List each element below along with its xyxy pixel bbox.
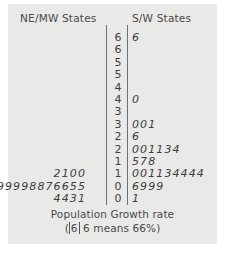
table-row: 6 6 — [8, 31, 217, 43]
right-leaves: 578 — [132, 155, 156, 168]
table-row: 4431 0 1 — [8, 192, 217, 204]
right-group-header: S/W States — [132, 12, 191, 24]
stem-value: 2 — [112, 143, 124, 156]
table-row: 2100 1 001134444 — [8, 167, 217, 179]
table-row: 3 001 — [8, 118, 217, 130]
right-leaves: 0 — [132, 93, 140, 106]
stem-value: 3 — [112, 105, 124, 118]
right-leaves: 6 — [132, 130, 140, 143]
table-row: 2 001134 — [8, 143, 217, 155]
stem-value: 6 — [112, 43, 124, 56]
table-row: 3 — [8, 105, 217, 117]
stem-value: 0 — [112, 192, 124, 205]
right-leaves: 001134 — [132, 143, 181, 156]
right-leaves: 001134444 — [132, 167, 205, 180]
stem-value: 5 — [112, 56, 124, 69]
table-row: 2 6 — [8, 130, 217, 142]
stem-value: 3 — [112, 118, 124, 131]
right-leaves: 6 — [132, 31, 140, 44]
plot-caption: Population Growth rate (6 6 means 66%) — [8, 208, 217, 234]
column-headers: NE/MW States S/W States — [8, 10, 217, 30]
stem-and-leaf-plot: NE/MW States S/W States 6 6 6 5 5 4 — [8, 4, 217, 244]
stem-value: 4 — [112, 81, 124, 94]
left-group-header: NE/MW States — [20, 12, 96, 24]
stem-value: 2 — [112, 130, 124, 143]
stem-value: 6 — [112, 31, 124, 44]
stem-value: 1 — [112, 167, 124, 180]
key-remainder: 6 means 66%) — [83, 222, 160, 234]
right-leaves: 001 — [132, 118, 156, 131]
left-leaves: 2100 — [54, 167, 86, 180]
table-row: 4 — [8, 81, 217, 93]
stem-value: 5 — [112, 68, 124, 81]
stem-value: 4 — [112, 93, 124, 106]
table-row: 4 0 — [8, 93, 217, 105]
right-leaves: 1 — [132, 192, 140, 205]
caption-title: Population Growth rate — [8, 208, 217, 220]
table-row: 6 — [8, 43, 217, 55]
key-stem-value: 6 — [69, 222, 80, 234]
table-row: 1 578 — [8, 155, 217, 167]
left-leaves: 4431 — [54, 192, 86, 205]
plot-rows: 6 6 6 5 5 4 4 0 3 — [8, 31, 217, 206]
stem-value: 0 — [112, 180, 124, 193]
right-leaves: 6999 — [132, 180, 164, 193]
stem-value: 1 — [112, 155, 124, 168]
table-row: 5 — [8, 56, 217, 68]
table-row: 99998876655 0 6999 — [8, 180, 217, 192]
left-leaves: 99998876655 — [0, 180, 86, 193]
table-row: 5 — [8, 68, 217, 80]
caption-key: (6 6 means 66%) — [8, 222, 217, 234]
